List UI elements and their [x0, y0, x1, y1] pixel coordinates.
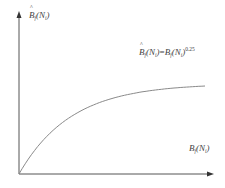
chart-canvas: [0, 0, 225, 188]
x-axis-arrow-icon: [207, 172, 214, 177]
y-axis-label: Bf(Ni): [29, 10, 50, 21]
curve-power-025: [19, 86, 205, 174]
x-axis-label: Bf(Ni): [189, 143, 210, 154]
y-axis-arrow-icon: [17, 11, 22, 18]
formula-annotation: Bf(Ni)=Bf(Ni)0.25: [139, 46, 195, 58]
